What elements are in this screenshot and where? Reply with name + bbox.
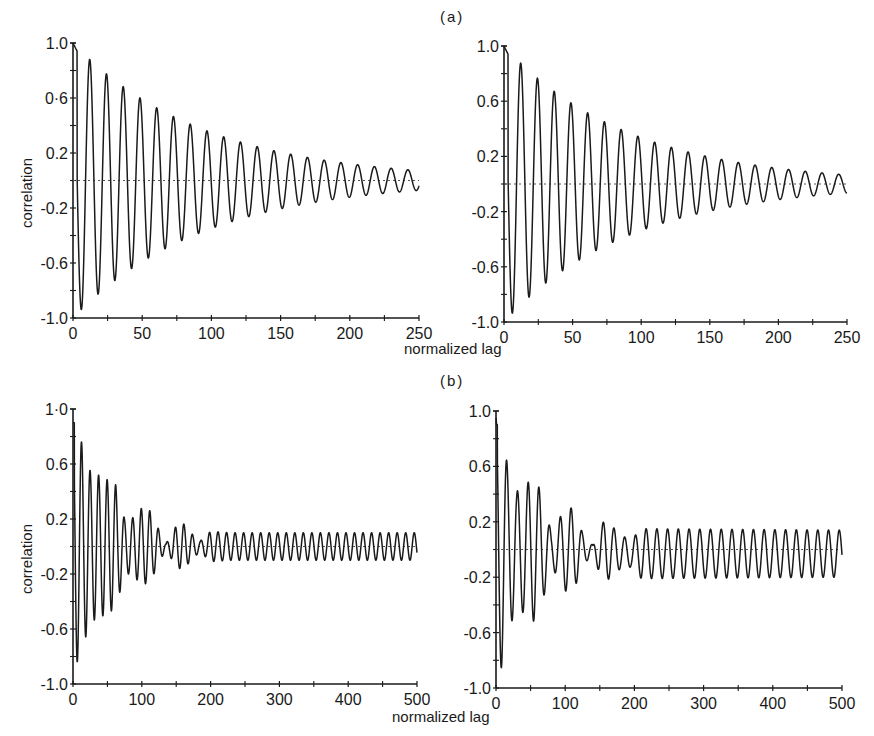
y-tick-label: 1.0: [469, 403, 491, 420]
y-tick-label: 0.6: [477, 93, 499, 110]
y-tick-label: -0.6: [40, 621, 68, 638]
y-axis-label-a: correlation: [18, 158, 35, 228]
figure: 1.00·60.2-0.2-0.6-1.00501001502002501.00…: [0, 0, 874, 736]
y-tick-label: -0.6: [40, 255, 68, 272]
y-tick-label: -1.0: [40, 310, 68, 327]
y-tick-label: -0.6: [471, 259, 499, 276]
panel-a-left: 1.00·60.2-0.2-0.6-1.0050100150200250: [40, 35, 432, 342]
x-axis-label-a: normalized lag: [404, 340, 502, 357]
x-tick-label: 0: [492, 695, 501, 712]
correlation-curve: [73, 43, 419, 310]
panel-b-left: 1·00.60.2-0.2-0.6-1.00100200300400500: [40, 401, 430, 708]
y-tick-label: 1·0: [45, 401, 68, 418]
x-tick-label: 400: [335, 691, 362, 708]
x-tick-label: 300: [266, 691, 293, 708]
y-tick-label: 1.0: [477, 38, 499, 55]
y-tick-label: -0.6: [463, 625, 491, 642]
y-axis-label-b: correlation: [18, 524, 35, 594]
y-tick-label: 1.0: [46, 35, 68, 52]
x-tick-label: 200: [765, 329, 792, 346]
x-tick-label: 500: [404, 691, 431, 708]
correlation-curve: [496, 418, 842, 668]
y-tick-label: -1.0: [40, 676, 68, 693]
y-tick-label: 0.6: [469, 458, 491, 475]
correlation-curve: [504, 46, 847, 313]
x-tick-label: 50: [564, 329, 582, 346]
x-tick-label: 100: [552, 695, 579, 712]
x-tick-label: 100: [628, 329, 655, 346]
x-tick-label: 500: [829, 695, 856, 712]
x-tick-label: 50: [133, 325, 151, 342]
y-tick-label: 0.2: [469, 514, 491, 531]
x-tick-label: 200: [336, 325, 363, 342]
x-tick-label: 100: [198, 325, 225, 342]
x-axis-label-b: normalized lag: [392, 708, 490, 725]
x-tick-label: 0: [69, 325, 78, 342]
x-tick-label: 150: [696, 329, 723, 346]
y-tick-label: -0.2: [40, 566, 68, 583]
y-tick-label: -0.2: [471, 204, 499, 221]
x-tick-label: 0: [69, 691, 78, 708]
y-tick-label: -1.0: [471, 314, 499, 331]
y-tick-label: 0.2: [477, 148, 499, 165]
x-tick-label: 200: [197, 691, 224, 708]
x-tick-label: 150: [267, 325, 294, 342]
y-tick-label: 0·6: [45, 90, 68, 107]
x-tick-label: 250: [834, 329, 861, 346]
y-tick-label: 0.2: [46, 145, 68, 162]
x-tick-label: 400: [759, 695, 786, 712]
correlation-curve: [73, 423, 417, 662]
panel-label-b: (b): [440, 372, 464, 389]
x-tick-label: 300: [690, 695, 717, 712]
panel-a-right: 1.00.60.2-0.2-0.6-1.0050100150200250: [471, 38, 860, 346]
panel-label-a: (a): [440, 8, 464, 25]
y-tick-label: -0.2: [40, 200, 68, 217]
plot-canvas: 1.00·60.2-0.2-0.6-1.00501001502002501.00…: [0, 0, 874, 736]
y-tick-label: 0.2: [46, 511, 68, 528]
y-tick-label: -0.2: [463, 569, 491, 586]
x-tick-label: 200: [621, 695, 648, 712]
y-tick-label: -1.0: [463, 680, 491, 697]
y-tick-label: 0.6: [46, 456, 68, 473]
x-tick-label: 100: [128, 691, 155, 708]
panel-b-right: 1.00.60.2-0.2-0.6-1.00100200300400500: [463, 403, 855, 712]
